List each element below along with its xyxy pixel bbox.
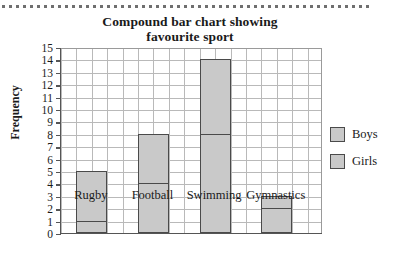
legend-swatch-boys xyxy=(330,127,345,142)
legend-swatch-girls xyxy=(330,154,345,169)
y-axis-title: Frequency xyxy=(8,73,23,153)
y-axis-tick-label: 3 xyxy=(31,192,53,202)
chart-title: Compound bar chart showing favourite spo… xyxy=(45,14,335,44)
y-axis-tick-label: 10 xyxy=(31,105,53,115)
bar-segment-girls-rugby[interactable] xyxy=(76,221,107,233)
grid-right-border xyxy=(321,48,322,233)
legend-label-boys: Boys xyxy=(352,128,378,141)
bar-football[interactable] xyxy=(138,134,169,233)
y-axis-tick xyxy=(56,172,61,173)
x-axis-label-swimming: Swimming xyxy=(187,188,242,203)
y-axis-tick-label: 11 xyxy=(31,93,53,103)
y-axis-tick-label: 15 xyxy=(31,43,53,53)
y-axis-tick-label: 12 xyxy=(31,80,53,90)
y-axis-tick-label: 2 xyxy=(31,204,53,214)
chart-title-line-1: Compound bar chart showing xyxy=(102,14,277,29)
y-axis-tick xyxy=(56,222,61,223)
y-axis-tick-label: 0 xyxy=(31,229,53,239)
y-axis-tick xyxy=(56,135,61,136)
x-axis-label-football: Football xyxy=(132,188,174,203)
y-axis-tick xyxy=(56,147,61,148)
y-axis-tick-label: 13 xyxy=(31,68,53,78)
bar-segment-girls-swimming[interactable] xyxy=(200,134,231,233)
perforation-dotted-line xyxy=(2,5,370,8)
chart-figure: Compound bar chart showing favourite spo… xyxy=(0,0,393,267)
y-axis-tick xyxy=(56,48,61,49)
y-axis-tick xyxy=(56,160,61,161)
x-axis-label-gymnastics: Gymnastics xyxy=(246,188,305,203)
y-axis-tick xyxy=(56,197,61,198)
y-axis-tick xyxy=(56,98,61,99)
legend: Boys Girls xyxy=(330,126,378,180)
chart-title-line-2: favourite sport xyxy=(45,29,335,44)
bar-swimming[interactable] xyxy=(200,59,231,233)
y-axis-tick xyxy=(56,110,61,111)
x-axis-label-rugby: Rugby xyxy=(74,188,107,203)
y-axis-tick xyxy=(56,60,61,61)
bar-segment-boys-football[interactable] xyxy=(138,134,169,184)
y-axis-tick-label: 6 xyxy=(31,155,53,165)
y-axis-tick-label: 8 xyxy=(31,130,53,140)
legend-label-girls: Girls xyxy=(352,155,377,168)
y-axis-tick-label: 14 xyxy=(31,55,53,65)
grid-top-border xyxy=(61,48,322,49)
y-axis-tick-label: 4 xyxy=(31,179,53,189)
bar-segment-boys-swimming[interactable] xyxy=(200,59,231,133)
bar-segment-girls-gymnastics[interactable] xyxy=(261,208,292,233)
y-axis-tick-label: 5 xyxy=(31,167,53,177)
legend-item-boys: Boys xyxy=(330,126,378,142)
y-axis-tick xyxy=(56,73,61,74)
y-axis-tick-label: 7 xyxy=(31,142,53,152)
y-axis-tick xyxy=(56,122,61,123)
y-axis-tick-label: 1 xyxy=(31,217,53,227)
y-axis-tick xyxy=(56,85,61,86)
y-axis-tick xyxy=(56,234,61,235)
y-axis-tick-label: 9 xyxy=(31,117,53,127)
y-axis-tick xyxy=(56,184,61,185)
y-axis-tick xyxy=(56,209,61,210)
legend-item-girls: Girls xyxy=(330,153,378,169)
plot-area: 1514131211109876543210 xyxy=(60,48,322,234)
